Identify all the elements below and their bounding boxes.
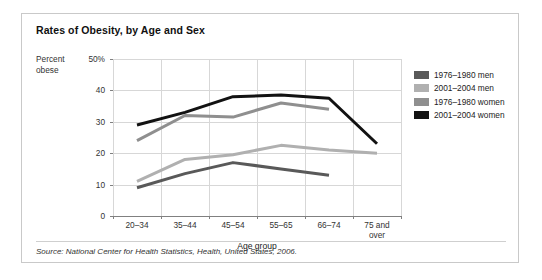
legend-item: 1976–1980 men [414,70,505,79]
gridline-vertical [401,59,402,216]
x-axis-tick-mark [305,216,306,219]
x-axis-tick-mark [257,216,258,219]
y-axis-tick-label: 0 [65,211,105,221]
y-axis-tick-label: 50% [65,54,105,64]
legend-item: 2001–2004 men [414,84,505,93]
x-axis-tick-label: 75 andover [349,220,405,240]
page-title: Rates of Obesity, by Age and Sex [36,24,205,36]
legend-label: 1976–1980 women [434,97,505,107]
y-axis-tick-label: 40 [65,85,105,95]
source-note: Source: National Center for Health Stati… [36,247,297,256]
x-axis-tick-mark [353,216,354,219]
chart-plot-area: 50%403020100 20–3435–4445–5455–6566–7475… [113,59,401,216]
legend-label: 2001–2004 men [434,83,494,93]
y-axis-tick-label: 30 [65,117,105,127]
chart-legend: 1976–1980 men2001–2004 men1976–1980 wome… [414,70,505,124]
x-axis-tick-mark [209,216,210,219]
legend-label: 2001–2004 women [434,110,505,120]
y-axis-title-line2: obese [36,65,59,75]
x-axis-tick-mark [113,216,114,219]
x-axis-tick-mark [401,216,402,219]
legend-swatch [414,71,429,79]
x-axis-tick-mark [161,216,162,219]
source-divider [36,241,506,242]
legend-item: 1976–1980 women [414,97,505,106]
legend-item: 2001–2004 women [414,111,505,120]
series-line [137,103,329,141]
series-line [137,163,329,188]
figure-panel: Rates of Obesity, by Age and Sex Percent… [21,13,519,263]
legend-swatch [414,98,429,106]
y-axis-tick-label: 10 [65,180,105,190]
y-axis-title-line1: Percent [36,54,65,64]
series-line [137,95,377,144]
legend-swatch [414,111,429,119]
legend-swatch [414,84,429,92]
data-series-lines [113,59,401,216]
legend-label: 1976–1980 men [434,70,494,80]
y-axis-tick-label: 20 [65,148,105,158]
